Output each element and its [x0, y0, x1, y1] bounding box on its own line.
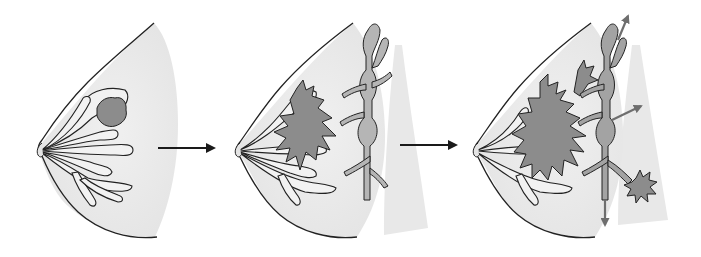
localized-tumor — [97, 97, 126, 126]
breast-cancer-progression-diagram: breast cancer progression — [0, 0, 701, 257]
stage-3-panel — [473, 16, 668, 238]
stage-1-panel — [37, 23, 178, 238]
nipple — [473, 143, 479, 157]
nipple — [235, 143, 241, 157]
nipple — [37, 143, 43, 157]
stage-2-panel — [235, 23, 428, 238]
spread-arrow-up — [618, 16, 628, 40]
